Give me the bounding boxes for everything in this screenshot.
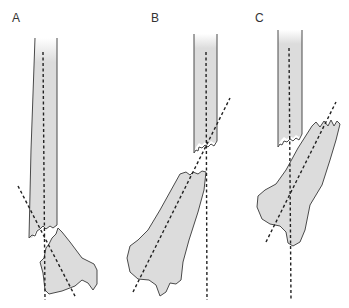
panel-b [127, 34, 230, 300]
panel-c [257, 30, 340, 300]
panel-a [18, 38, 97, 300]
fracture-diagram [0, 0, 349, 308]
distal-fragment-c [257, 120, 340, 246]
distal-fragment-b [127, 171, 206, 296]
proximal-shaft-a [29, 38, 57, 238]
